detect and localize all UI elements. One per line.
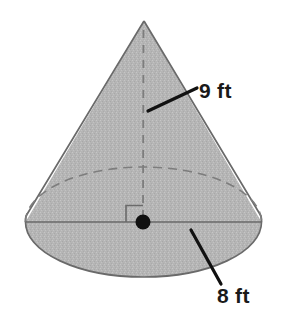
- cone-diagram: 9 ft 8 ft: [0, 0, 281, 329]
- diameter-dimension-label: 8 ft: [217, 285, 250, 306]
- center-dot: [136, 215, 151, 230]
- height-dimension-label: 9 ft: [199, 80, 232, 101]
- cone-drawing: [0, 0, 281, 329]
